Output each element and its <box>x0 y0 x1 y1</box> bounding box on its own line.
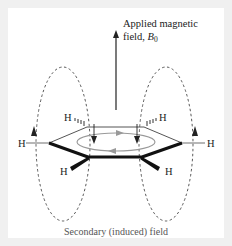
h-atom-left: H <box>18 138 26 149</box>
benzene-ring-current-diagram: Applied magnetic field, B0 H H H H H <box>0 0 232 246</box>
induced-field-lines <box>36 67 193 221</box>
field-loop-left <box>36 67 90 221</box>
h-atom-right: H <box>207 138 215 149</box>
applied-field-label-line1: Applied magnetic <box>123 18 198 29</box>
h-atom-back-right: H <box>159 112 167 123</box>
applied-field-arrow <box>113 30 119 110</box>
hashed-bonds <box>75 118 156 126</box>
h-atom-back-left: H <box>64 112 72 123</box>
ring-current <box>77 130 155 154</box>
wedge-bond-left <box>70 157 90 171</box>
h-atom-front-left: H <box>60 166 68 177</box>
applied-field-label-line2: field, B0 <box>123 31 158 44</box>
ring-current-arrow-top <box>116 130 124 136</box>
ring-current-arrow-bottom <box>108 148 116 154</box>
h-atom-front-right: H <box>165 166 173 177</box>
wedge-bond-right <box>140 157 160 171</box>
field-loop-right <box>139 67 193 221</box>
caption: Secondary (induced) field <box>64 226 168 238</box>
